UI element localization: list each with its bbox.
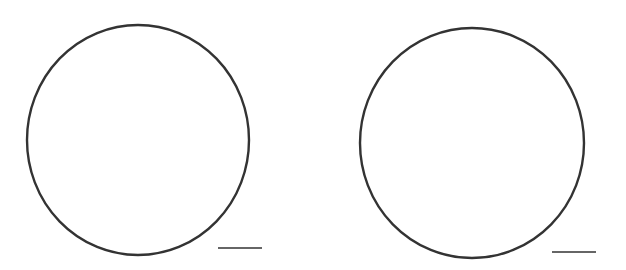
circle-right (360, 28, 584, 258)
panel-right (360, 28, 596, 258)
panel-left (27, 25, 262, 255)
circle-left (27, 25, 249, 255)
figure-canvas (0, 0, 626, 270)
